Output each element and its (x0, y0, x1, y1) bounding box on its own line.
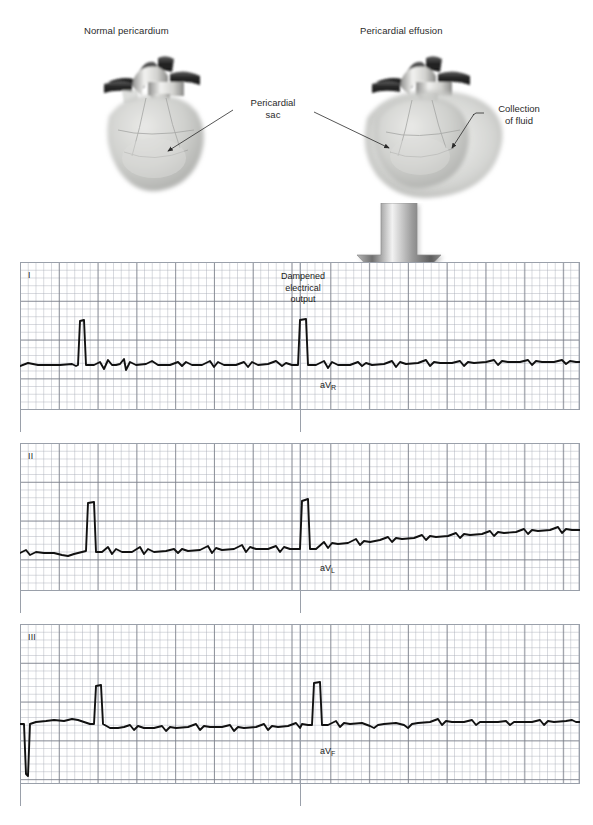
callout-collection-of-fluid: Collection of fluid (487, 103, 551, 127)
annotation-line3: output (290, 294, 315, 304)
ecg-strip-lead-II-aVL: II aVL (20, 443, 580, 613)
annotation-line2: electrical (285, 283, 321, 293)
callout-sac-line1: Pericardial (251, 97, 296, 108)
anatomy-panel: Normal pericardium Pericardial effusion (0, 0, 593, 255)
ecg-waveform-lead-III-aVF (20, 624, 580, 784)
ecg-trace-path (20, 499, 580, 556)
callout-leader-lines (0, 0, 593, 255)
leader-fluid (452, 114, 474, 148)
ecg-waveform-lead-II-aVL (20, 443, 580, 591)
ecg-trace-path (20, 319, 580, 370)
leader-sac-right (314, 112, 389, 148)
callout-sac-line2: sac (266, 109, 281, 120)
leader-sac-left (168, 110, 233, 151)
annotation-dampened-electrical-output: Dampened electrical output (257, 271, 349, 306)
ecg-trace-path (20, 682, 580, 776)
ecg-strip-lead-III-aVF: III aVF (20, 624, 580, 806)
callout-fluid-line2: of fluid (505, 115, 533, 126)
callout-pericardial-sac: Pericardial sac (237, 97, 309, 121)
callout-fluid-line1: Collection (498, 103, 540, 114)
annotation-line1: Dampened (281, 271, 325, 281)
